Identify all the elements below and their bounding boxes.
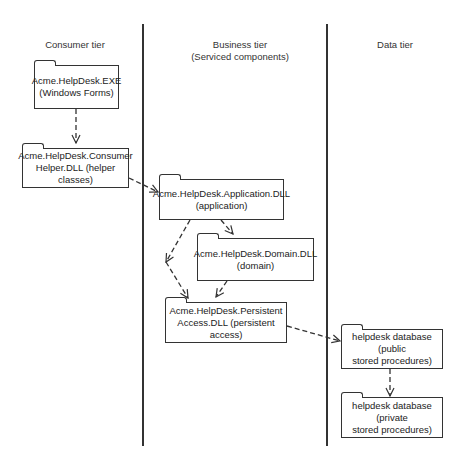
package-tab	[341, 324, 363, 330]
package-tab	[159, 174, 181, 180]
package-helpdesk-exe: Acme.HelpDesk.EXE (Windows Forms)	[34, 65, 119, 109]
package-label: Acme.HelpDesk.Application.DLL (applicati…	[153, 188, 290, 212]
package-db-public-procs: helpdesk database (public stored procedu…	[341, 329, 443, 369]
dep-persistent-to-db-public	[287, 326, 340, 341]
package-application-dll: Acme.HelpDesk.Application.DLL (applicati…	[159, 179, 284, 220]
package-tab	[197, 233, 219, 239]
package-label: helpdesk database (public stored procedu…	[342, 331, 442, 367]
package-domain-dll: Acme.HelpDesk.Domain.DLL (domain)	[197, 238, 314, 281]
package-tab	[34, 60, 56, 66]
dep-application-to-persistent-b	[166, 262, 188, 298]
package-label: Acme.HelpDesk.Consumer Helper.DLL (helpe…	[18, 150, 133, 186]
dep-application-to-domain	[221, 220, 233, 234]
package-persistent-access-dll: Acme.HelpDesk.Persistent Access.DLL (per…	[165, 302, 287, 343]
package-tab	[341, 392, 363, 398]
package-tab	[165, 297, 187, 303]
package-label: helpdesk database (private stored proced…	[342, 400, 442, 436]
dep-domain-to-persistent	[216, 281, 227, 297]
package-tab	[22, 143, 44, 149]
dep-application-to-persistent	[166, 220, 190, 262]
package-label: Acme.HelpDesk.EXE (Windows Forms)	[32, 75, 122, 99]
package-db-private-procs: helpdesk database (private stored proced…	[341, 397, 443, 438]
package-consumer-helper-dll: Acme.HelpDesk.Consumer Helper.DLL (helpe…	[22, 148, 129, 188]
package-label: Acme.HelpDesk.Domain.DLL (domain)	[194, 248, 318, 272]
package-label: Acme.HelpDesk.Persistent Access.DLL (per…	[166, 305, 286, 341]
